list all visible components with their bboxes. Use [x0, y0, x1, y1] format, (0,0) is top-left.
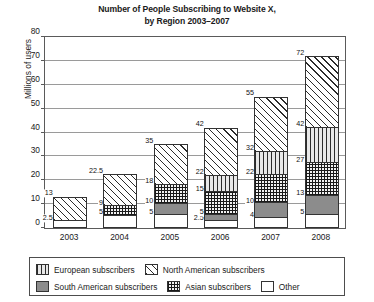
bar-slot: 513274272 [297, 37, 347, 228]
bar-value-label: 22.5 [88, 167, 103, 174]
y-axis-tick-label: 50 [31, 98, 40, 108]
stacked-bar[interactable] [103, 174, 137, 228]
legend-row-1: European subscribersNorth American subsc… [36, 261, 338, 278]
bar-group: 2.5135922.551018352.55152242410223255513… [45, 37, 345, 228]
bar-segment-other[interactable] [155, 215, 187, 227]
legend-swatch-euro [36, 264, 49, 275]
bar-value-label: 13 [296, 190, 305, 197]
bar-value-label: 32 [245, 144, 254, 151]
bar-segment-asian[interactable] [104, 206, 136, 215]
x-axis-tick-label: 2006 [211, 232, 230, 242]
y-axis-tick-label: 80 [31, 26, 40, 36]
y-axis-tick-label: 40 [31, 122, 40, 132]
bar-value-label: 72 [296, 49, 305, 56]
chart-legend: European subscribersNorth American subsc… [29, 257, 345, 296]
y-axis-tick-label: 60 [31, 74, 40, 84]
bar-value-label: 22 [195, 168, 204, 175]
bar-segment-north[interactable] [104, 175, 136, 206]
chart-title-line1: Number of People Subscribing to Website … [98, 4, 276, 14]
bar-value-label: 55 [245, 89, 254, 96]
bar-segment-south[interactable] [205, 215, 237, 221]
bar-value-label: 13 [44, 190, 53, 197]
bar-value-label: 5 [199, 209, 204, 216]
bar-segment-north[interactable] [306, 57, 338, 128]
bar-segment-south[interactable] [306, 196, 338, 215]
bar-segment-other[interactable] [205, 221, 237, 227]
legend-label: North American subscribers [163, 265, 265, 275]
bar-value-label: 42 [195, 121, 204, 128]
bar-value-label: 15 [195, 185, 204, 192]
chart-title-line2: by Region 2003–2007 [144, 16, 229, 26]
legend-swatch-asian [167, 281, 180, 292]
x-axis-tick-label: 2004 [110, 232, 129, 242]
y-axis-tick-label: 70 [31, 50, 40, 60]
bar-slot: 2.513 [45, 37, 95, 228]
bar-value-label: 2.5 [42, 215, 53, 222]
x-axis-tick-label: 2005 [161, 232, 180, 242]
bar-value-label: 22 [245, 168, 254, 175]
stacked-bar[interactable] [154, 144, 188, 228]
x-axis-tick-label: 2007 [261, 232, 280, 242]
bar-value-label: 9 [98, 199, 103, 206]
bar-slot: 410223255 [246, 37, 296, 228]
stacked-bar[interactable] [305, 56, 339, 228]
stacked-bar[interactable] [254, 97, 288, 228]
bar-segment-other[interactable] [104, 216, 136, 227]
bar-segment-north[interactable] [54, 198, 86, 221]
y-axis-tick-label: 10 [31, 193, 40, 203]
bar-segment-euro[interactable] [306, 128, 338, 163]
legend-item[interactable]: Other [261, 281, 300, 292]
bar-segment-south[interactable] [255, 203, 287, 217]
bar-segment-north[interactable] [255, 98, 287, 152]
legend-row-2: South American subscribersAsian subscrib… [36, 278, 338, 295]
bar-segment-euro[interactable] [255, 152, 287, 176]
bar-segment-north[interactable] [205, 129, 237, 176]
legend-item[interactable]: Asian subscribers [167, 281, 250, 292]
legend-swatch-other [261, 281, 274, 292]
legend-swatch-south [36, 281, 49, 292]
bar-value-label: 10 [245, 197, 254, 204]
legend-item[interactable]: European subscribers [36, 264, 135, 275]
x-axis-tick-label: 2003 [60, 232, 79, 242]
legend-label: Other [279, 282, 300, 292]
bar-segment-other[interactable] [306, 215, 338, 227]
bar-value-label: 42 [296, 121, 305, 128]
chart-title: Number of People Subscribing to Website … [0, 4, 374, 27]
y-axis-label: Millions of users [23, 39, 33, 99]
x-axis-tick-label: 2008 [312, 232, 331, 242]
bar-value-label: 5 [300, 209, 305, 216]
bar-segment-other[interactable] [54, 221, 86, 227]
bar-value-label: 5 [98, 209, 103, 216]
bar-slot: 5101835 [146, 37, 196, 228]
stacked-bar[interactable] [53, 197, 87, 228]
y-axis-tick-label: 0 [35, 217, 40, 227]
legend-item[interactable]: North American subscribers [145, 264, 265, 275]
bar-value-label: 35 [145, 137, 154, 144]
bar-segment-asian[interactable] [205, 192, 237, 215]
bar-value-label: 5 [149, 209, 154, 216]
y-axis-tick-label: 20 [31, 169, 40, 179]
bar-slot: 5922.5 [95, 37, 145, 228]
bar-segment-asian[interactable] [306, 163, 338, 196]
bar-segment-south[interactable] [155, 204, 187, 216]
bar-value-label: 10 [145, 197, 154, 204]
legend-label: Asian subscribers [185, 282, 250, 292]
bar-segment-asian[interactable] [155, 185, 187, 204]
legend-label: European subscribers [54, 265, 135, 275]
legend-swatch-north [145, 264, 158, 275]
y-axis-tick-label: 30 [31, 145, 40, 155]
bar-slot: 2.55152242 [196, 37, 246, 228]
legend-item[interactable]: South American subscribers [36, 281, 157, 292]
bar-segment-euro[interactable] [205, 176, 237, 192]
legend-label: South American subscribers [54, 282, 157, 292]
bar-segment-other[interactable] [255, 218, 287, 227]
bar-value-label: 4 [249, 211, 254, 218]
bar-value-label: 18 [145, 178, 154, 185]
bar-value-label: 27 [296, 156, 305, 163]
chart-root: Number of People Subscribing to Website … [0, 0, 374, 302]
plot-area: Millions of users 01020304050607080 2.51… [44, 36, 346, 229]
bar-segment-asian[interactable] [255, 175, 287, 203]
bar-segment-north[interactable] [155, 145, 187, 185]
stacked-bar[interactable] [204, 128, 238, 228]
